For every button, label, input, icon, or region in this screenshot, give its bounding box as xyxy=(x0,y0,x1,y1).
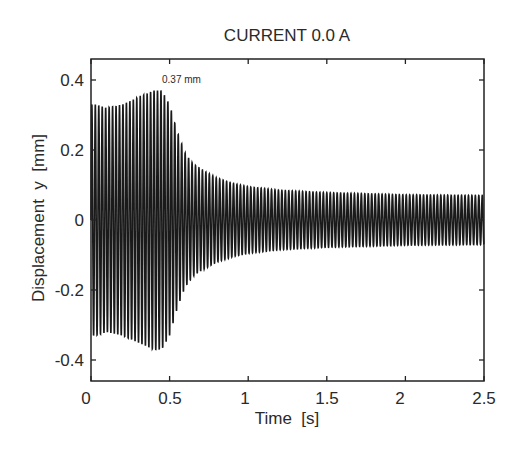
y-tick-labels: 0.4 0.2 0 -0.2 -0.4 xyxy=(55,71,84,370)
y-tick-label: 0 xyxy=(75,211,84,230)
x-tick-label: 1.5 xyxy=(315,389,339,408)
x-axis-label: Time [s] xyxy=(255,409,320,428)
x-tick-label: 1 xyxy=(240,389,249,408)
x-tick-label: 0.5 xyxy=(158,389,182,408)
displacement-signal xyxy=(91,91,484,350)
y-tick-label: -0.2 xyxy=(55,281,84,300)
y-tick-label: 0.4 xyxy=(60,71,84,90)
chart-figure: CURRENT 0.0 A 0.4 0.2 0 -0.2 -0.4 0 0.5 … xyxy=(0,0,526,454)
x-tick-labels: 0 0.5 1 1.5 2 2.5 xyxy=(81,389,496,408)
x-tick-label: 2.5 xyxy=(472,389,496,408)
peak-annotation: 0.37 mm xyxy=(162,74,201,85)
chart-title: CURRENT 0.0 A xyxy=(224,26,351,45)
y-axis-label: Displacement y [mm] xyxy=(29,134,48,302)
y-tick-label: 0.2 xyxy=(60,141,84,160)
x-tick-label: 2 xyxy=(395,389,404,408)
x-tick-label: 0 xyxy=(81,389,90,408)
y-tick-label: -0.4 xyxy=(55,351,84,370)
